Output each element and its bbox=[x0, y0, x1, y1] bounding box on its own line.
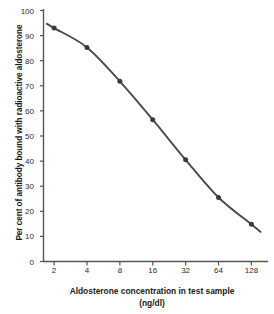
chart-figure: Per cent of antibody bound with radioact… bbox=[0, 0, 274, 314]
data-point-marker bbox=[117, 79, 122, 84]
x-tick-label-layer: 248163264128 bbox=[0, 266, 274, 280]
data-point-marker bbox=[150, 117, 155, 122]
data-point-marker bbox=[52, 26, 57, 31]
x-tick-label: 8 bbox=[118, 266, 122, 275]
x-tick-label: 4 bbox=[85, 266, 89, 275]
x-tick-label: 16 bbox=[148, 266, 157, 275]
x-axis-title-units: (ng/dl) bbox=[30, 298, 274, 310]
x-tick-label: 64 bbox=[214, 266, 223, 275]
x-tick-label: 2 bbox=[52, 266, 56, 275]
data-point-marker bbox=[183, 157, 188, 162]
data-curve bbox=[47, 24, 261, 232]
x-tick-label: 32 bbox=[181, 266, 190, 275]
x-tick-label: 128 bbox=[245, 266, 258, 275]
x-axis-title: Aldosterone concentration in test sample… bbox=[30, 286, 274, 309]
data-point-marker bbox=[216, 195, 221, 200]
x-axis-title-line1: Aldosterone concentration in test sample bbox=[70, 286, 235, 296]
data-point-marker bbox=[84, 45, 89, 50]
data-point-marker bbox=[249, 222, 254, 227]
data-point-markers bbox=[52, 26, 254, 227]
